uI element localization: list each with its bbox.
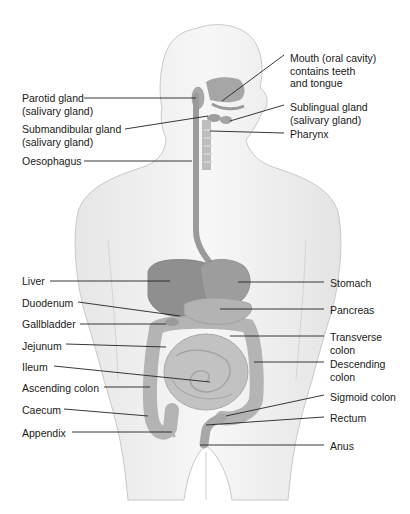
label-duodenum: Duodenum xyxy=(22,297,73,310)
label-stomach: Stomach xyxy=(330,277,371,290)
label-mouth: Mouth (oral cavity) contains teeth and t… xyxy=(290,52,376,90)
label-oesophagus: Oesophagus xyxy=(22,155,82,168)
label-liver: Liver xyxy=(22,275,45,288)
label-submandibular: Submandibular gland (salivary gland) xyxy=(22,123,121,148)
label-jejunum: Jejunum xyxy=(22,340,62,353)
label-transverse-colon: Transverse colon xyxy=(330,331,382,356)
label-caecum: Caecum xyxy=(22,404,61,417)
label-ascending-colon: Ascending colon xyxy=(22,382,99,395)
label-pancreas: Pancreas xyxy=(330,304,374,317)
label-parotid: Parotid gland (salivary gland) xyxy=(22,92,93,117)
label-ileum: Ileum xyxy=(22,361,48,374)
label-appendix: Appendix xyxy=(22,427,66,440)
label-rectum: Rectum xyxy=(330,412,366,425)
label-anus: Anus xyxy=(330,440,354,453)
label-sublingual: Sublingual gland (salivary gland) xyxy=(290,101,368,126)
label-descending-colon: Descending colon xyxy=(330,358,385,383)
label-gallbladder: Gallbladder xyxy=(22,318,76,331)
label-pharynx: Pharynx xyxy=(290,128,329,141)
label-sigmoid-colon: Sigmoid colon xyxy=(330,391,396,404)
